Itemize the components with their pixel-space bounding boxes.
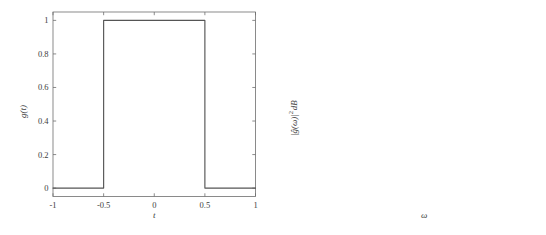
right-y-axis-label: |ĝ(ω)|2 dB	[287, 100, 299, 136]
right-x-axis-label: ω	[325, 210, 524, 220]
right-plot-svg: -500500-20-40-60-80-100-120-140	[273, 0, 546, 235]
left-axes-box	[53, 12, 256, 197]
x-tick-label: 0.5	[200, 200, 211, 210]
plot-panel-right: -500500-20-40-60-80-100-120-140 ω |ĝ(ω)|…	[273, 0, 546, 235]
left-plot-svg: -1-0.500.5100.20.40.60.81	[0, 0, 273, 235]
left-y-axis-label: g(t)	[18, 105, 28, 118]
right-y-magnitude: |ĝ(ω)|	[289, 114, 299, 136]
y-tick-label: 0.4	[38, 116, 49, 126]
x-tick-label: 0	[152, 200, 156, 210]
x-tick-label: -0.5	[97, 200, 110, 210]
y-tick-label: 0.2	[38, 150, 49, 160]
right-y-exponent: 2	[287, 111, 294, 114]
pulse-waveform-line	[53, 20, 256, 188]
plot-panel-left: -1-0.500.5100.20.40.60.81 t g(t)	[0, 0, 273, 235]
x-tick-label: 1	[253, 200, 257, 210]
right-y-units: dB	[289, 100, 299, 110]
y-tick-label: 0.6	[38, 82, 49, 92]
y-tick-label: 0.8	[38, 49, 49, 59]
left-x-axis-label: t	[53, 210, 256, 220]
y-tick-label: 0	[44, 183, 48, 193]
x-tick-label: -1	[49, 200, 56, 210]
y-tick-label: 1	[44, 15, 48, 25]
figure-canvas: -1-0.500.5100.20.40.60.81 t g(t) -500500…	[0, 0, 546, 235]
